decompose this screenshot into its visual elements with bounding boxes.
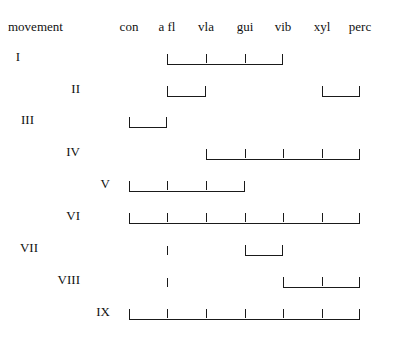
chart-row: IX — [0, 302, 397, 332]
movement-label: VIII — [58, 273, 80, 287]
instrument-span-bracket — [167, 54, 283, 65]
chart-row: V — [0, 174, 397, 204]
instrument-tick — [283, 213, 284, 222]
instrument-tick — [245, 54, 246, 63]
movement-instrumentation-chart: movement cona flvlaguivibxylperc IIIIIII… — [0, 0, 397, 341]
instrument-span-bracket — [129, 181, 245, 192]
instrument-single-mark — [167, 246, 168, 255]
instrument-tick — [322, 277, 323, 286]
instrument-span-bracket — [322, 86, 360, 97]
instrument-tick — [245, 213, 246, 222]
column-header-xyl: xyl — [314, 20, 331, 34]
chart-row: VI — [0, 206, 397, 236]
column-header-afl: a fl — [159, 20, 176, 34]
column-header-gui: gui — [237, 20, 254, 34]
chart-row: VIII — [0, 270, 397, 300]
instrument-tick — [322, 309, 323, 318]
movement-label: V — [101, 177, 110, 191]
instrument-tick — [322, 213, 323, 222]
chart-row: III — [0, 110, 397, 140]
column-header-vib: vib — [275, 20, 292, 34]
instrument-tick — [206, 181, 207, 190]
instrument-span-bracket — [167, 86, 206, 97]
instrument-tick — [283, 309, 284, 318]
instrument-tick — [322, 149, 323, 158]
movement-label: VI — [66, 209, 80, 223]
instrument-tick — [245, 309, 246, 318]
instrument-tick — [167, 309, 168, 318]
instrument-single-mark — [167, 278, 168, 287]
instrument-span-bracket — [129, 117, 167, 128]
movement-label: IX — [96, 305, 110, 319]
instrument-tick — [167, 181, 168, 190]
instrument-tick — [206, 54, 207, 63]
column-header-vla: vla — [198, 20, 214, 34]
instrument-span-bracket — [245, 245, 283, 256]
column-header-perc: perc — [349, 20, 371, 34]
movement-column-header: movement — [8, 20, 63, 34]
movement-label: III — [21, 113, 34, 127]
instrument-tick — [245, 149, 246, 158]
chart-header-row: movement cona flvlaguivibxylperc — [0, 0, 397, 38]
instrument-tick — [206, 309, 207, 318]
movement-label: II — [71, 82, 80, 96]
movement-label: I — [16, 50, 20, 64]
chart-row: I — [0, 47, 397, 77]
chart-row: VII — [0, 238, 397, 268]
movement-label: IV — [66, 145, 80, 159]
column-header-con: con — [120, 20, 139, 34]
instrument-tick — [167, 213, 168, 222]
instrument-tick — [206, 213, 207, 222]
instrument-tick — [283, 149, 284, 158]
chart-row: II — [0, 79, 397, 109]
movement-label: VII — [20, 241, 38, 255]
chart-row: IV — [0, 142, 397, 172]
